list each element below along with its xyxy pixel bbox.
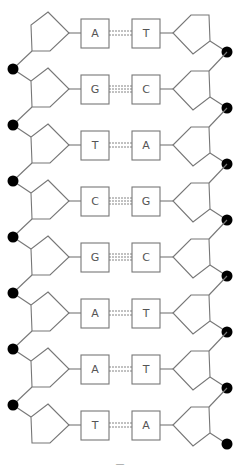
base-label-right: C	[142, 83, 150, 96]
base-label-right: C	[142, 251, 150, 264]
sugar-pentagon-right	[173, 351, 210, 390]
figure-caption: —	[0, 459, 240, 467]
phosphate-left	[8, 120, 19, 131]
base-label-left: C	[91, 195, 99, 208]
phosphate-left	[8, 288, 19, 299]
sugar-pentagon-right	[173, 407, 210, 446]
base-label-left: T	[91, 139, 99, 152]
base-label-right: T	[142, 307, 150, 320]
base-label-left: A	[91, 27, 99, 40]
base-label-right: T	[142, 27, 150, 40]
backbone-line-right	[209, 276, 227, 295]
base-label-right: A	[142, 139, 150, 152]
base-label-left: G	[91, 83, 100, 96]
sugar-pentagon-left	[31, 12, 69, 51]
base-label-right: A	[142, 419, 150, 432]
sugar-pentagon-left	[31, 236, 69, 275]
backbone-line-right	[209, 332, 227, 351]
base-label-right: G	[142, 195, 151, 208]
phosphate-left	[8, 344, 19, 355]
sugar-pentagon-left	[31, 68, 69, 107]
base-pair-row: TA	[31, 404, 233, 450]
base-label-left: T	[91, 419, 99, 432]
phosphate-left	[8, 400, 19, 411]
sugar-pentagon-right	[173, 15, 210, 54]
sugar-pentagon-left	[31, 292, 69, 331]
sugar-pentagon-right	[173, 127, 210, 166]
phosphate-left	[8, 176, 19, 187]
base-label-left: A	[91, 363, 99, 376]
backbone-line-right	[209, 388, 227, 407]
sugar-pentagon-left	[31, 348, 69, 387]
base-label-left: G	[91, 251, 100, 264]
sugar-pentagon-right	[173, 71, 210, 110]
backbone-line-right	[209, 164, 227, 183]
sugar-pentagon-right	[173, 239, 210, 278]
sugar-pentagon-left	[31, 124, 69, 163]
phosphate-left	[8, 232, 19, 243]
backbone-line-right	[209, 220, 227, 239]
sugar-pentagon-right	[173, 295, 210, 334]
base-label-left: A	[91, 307, 99, 320]
phosphate-right	[222, 439, 233, 450]
sugar-pentagon-left	[31, 180, 69, 219]
phosphate-left	[8, 64, 19, 75]
backbone-line-right	[209, 52, 227, 71]
sugar-pentagon-right	[173, 183, 210, 222]
backbone-line-right	[209, 108, 227, 127]
dna-diagram: ATGCTACGGCATATTA	[0, 0, 240, 467]
sugar-pentagon-left	[31, 404, 69, 443]
base-label-right: T	[142, 363, 150, 376]
